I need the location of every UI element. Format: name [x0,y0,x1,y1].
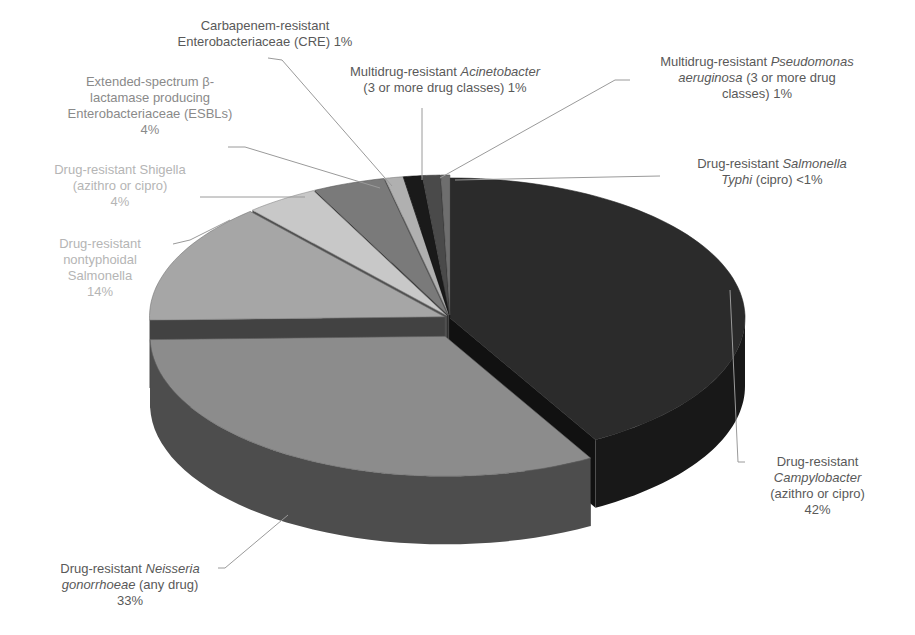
label-typhi: Drug-resistant Salmonella Typhi (cipro) … [672,156,872,188]
label-shigella-line3: 4% [20,194,220,210]
label-shigella: Drug-resistant Shigella (azithro or cipr… [20,162,220,210]
label-acinetobacter-line2: (3 or more drug classes) 1% [330,80,560,96]
label-neisseria-genus: Neisseria [146,561,200,576]
label-esbl: Extended-spectrum β- lactamase producing… [50,74,250,138]
label-shigella-line2: (azithro or cipro) [20,178,220,194]
label-pseudomonas-species: aeruginosa [678,70,742,85]
label-cre: Carbapenem-resistant Enterobacteriaceae … [150,18,380,50]
leader-neisseria [218,515,288,568]
label-esbl-line4: 4% [50,122,250,138]
label-neisseria-line3: 33% [40,593,220,609]
label-neisseria: Drug-resistant Neisseria gonorrhoeae (an… [40,561,220,609]
label-campylobacter-genus: Campylobacter [774,470,861,485]
label-cre-line1: Carbapenem-resistant [150,18,380,34]
label-esbl-line1: Extended-spectrum β- [50,74,250,90]
label-campylobacter-line1: Drug-resistant [745,454,890,470]
label-neisseria-line2: (any drug) [135,577,198,592]
label-nts-line4: 14% [30,284,170,300]
label-typhi-line2: (cipro) <1% [752,172,822,187]
label-pseudomonas-line3: classes) 1% [632,86,882,102]
label-esbl-line2: lactamase producing [50,90,250,106]
label-nts-line3: Salmonella [30,268,170,284]
label-shigella-line1: Drug-resistant Shigella [20,162,220,178]
label-nts: Drug-resistant nontyphoidal Salmonella 1… [30,236,170,300]
label-campylobacter-line4: 42% [745,502,890,518]
label-acinetobacter-line1: Multidrug-resistant [350,64,461,79]
label-campylobacter-line3: (azithro or cipro) [745,486,890,502]
label-typhi-serovar: Typhi [721,172,752,187]
label-nts-line1: Drug-resistant [30,236,170,252]
leader-typhi [455,176,660,180]
label-nts-line2: nontyphoidal [30,252,170,268]
label-campylobacter: Drug-resistant Campylobacter (azithro or… [745,454,890,518]
label-pseudomonas: Multidrug-resistant Pseudomonas aerugino… [632,54,882,102]
label-neisseria-species: gonorrhoeae [62,577,136,592]
label-neisseria-line1: Drug-resistant [60,561,145,576]
label-pseudomonas-line1: Multidrug-resistant [660,54,771,69]
label-typhi-line1: Drug-resistant [697,156,782,171]
label-pseudomonas-line2: (3 or more drug [743,70,836,85]
label-typhi-genus: Salmonella [782,156,846,171]
label-pseudomonas-genus: Pseudomonas [771,54,854,69]
label-acinetobacter-genus: Acinetobacter [461,64,541,79]
label-cre-line2: Enterobacteriaceae (CRE) 1% [150,34,380,50]
label-acinetobacter: Multidrug-resistant Acinetobacter (3 or … [330,64,560,96]
label-esbl-line3: Enterobacteriaceae (ESBLs) [50,106,250,122]
